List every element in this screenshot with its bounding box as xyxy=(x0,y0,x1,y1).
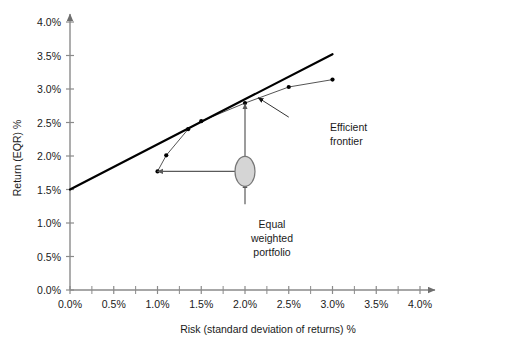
equal-weighted-label-line1: Equal xyxy=(259,218,286,230)
data-point xyxy=(164,153,168,157)
y-tick-label: 0.0% xyxy=(37,284,61,296)
y-tick-label: 3.0% xyxy=(37,83,61,95)
efficient-frontier-chart: 0.0%0.5%1.0%1.5%2.0%2.5%3.0%3.5%4.0% 0.0… xyxy=(0,0,517,343)
x-tick-label: 2.0% xyxy=(233,298,257,310)
equal-weighted-label-line2: weighted xyxy=(250,232,293,244)
y-tick-label: 3.5% xyxy=(37,50,61,62)
y-tick-label: 2.0% xyxy=(37,150,61,162)
x-tick-label: 2.5% xyxy=(277,298,301,310)
x-axis-title: Risk (standard deviation of returns) % xyxy=(180,323,356,335)
tangent-line xyxy=(70,54,333,189)
x-axis-tick-labels: 0.0%0.5%1.0%1.5%2.0%2.5%3.0%3.5%4.0% xyxy=(58,298,432,310)
x-tick-label: 1.5% xyxy=(189,298,213,310)
x-tick-label: 4.0% xyxy=(408,298,432,310)
chart-canvas: 0.0%0.5%1.0%1.5%2.0%2.5%3.0%3.5%4.0% 0.0… xyxy=(0,0,517,343)
equal-weighted-portfolio-marker xyxy=(235,156,255,186)
x-tick-label: 0.0% xyxy=(58,298,82,310)
efficient-frontier-label-line1: Efficient xyxy=(330,121,367,133)
equal-weighted-portfolio-ellipse xyxy=(235,156,255,186)
y-tick-label: 1.0% xyxy=(37,217,61,229)
x-tick-label: 1.0% xyxy=(146,298,170,310)
x-tick-label: 3.0% xyxy=(321,298,345,310)
x-tick-label: 3.5% xyxy=(364,298,388,310)
y-axis-tick-labels: 0.0%0.5%1.0%1.5%2.0%2.5%3.0%3.5%4.0% xyxy=(37,16,61,296)
y-tick-label: 2.5% xyxy=(37,117,61,129)
x-tick-label: 0.5% xyxy=(102,298,126,310)
efficient-frontier-label-line2: frontier xyxy=(330,135,363,147)
equal-weighted-label-line3: portfolio xyxy=(253,246,291,258)
leader-lines xyxy=(158,98,289,205)
y-axis-title: Return (EQR) % xyxy=(11,120,23,196)
data-series xyxy=(70,54,335,189)
y-tick-label: 0.5% xyxy=(37,251,61,263)
data-point xyxy=(287,85,291,89)
data-point xyxy=(330,78,334,82)
y-tick-label: 1.5% xyxy=(37,184,61,196)
efficient-frontier-pointer xyxy=(258,98,289,117)
y-tick-label: 4.0% xyxy=(37,16,61,28)
